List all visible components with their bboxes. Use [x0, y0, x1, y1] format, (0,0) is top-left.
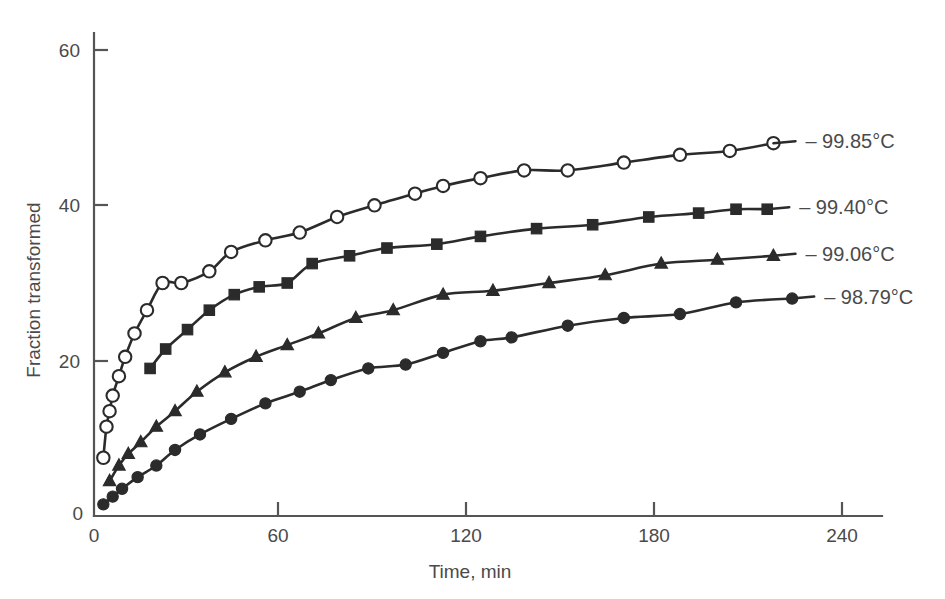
data-point-0-16	[409, 187, 421, 199]
data-point-1-12	[531, 223, 541, 233]
data-point-3-7	[226, 413, 237, 424]
data-point-3-12	[400, 359, 411, 370]
data-point-0-20	[562, 164, 574, 176]
y-tick-label-40: 40	[59, 195, 80, 216]
data-point-1-4	[229, 289, 239, 299]
data-point-3-1	[107, 491, 118, 502]
data-point-3-13	[437, 347, 448, 358]
data-point-3-14	[475, 336, 486, 347]
data-point-3-15	[506, 332, 517, 343]
data-point-1-10	[432, 239, 442, 249]
data-point-0-22	[674, 149, 686, 161]
data-point-0-7	[141, 304, 153, 316]
data-point-0-18	[474, 172, 486, 184]
data-point-0-1	[100, 420, 112, 432]
data-point-0-13	[294, 226, 306, 238]
data-point-0-8	[156, 277, 168, 289]
data-point-0-9	[175, 277, 187, 289]
series-99.85°C	[97, 137, 779, 464]
series-label-layer: – 99.85°C– 99.40°C– 99.06°C– 98.79°C	[799, 130, 913, 307]
data-point-1-16	[731, 204, 741, 214]
y-tick-label-60: 60	[59, 40, 80, 61]
data-point-3-4	[151, 460, 162, 471]
series-98.79°C	[98, 293, 798, 510]
x-tick-label-0: 0	[89, 525, 100, 546]
data-point-1-1	[160, 344, 170, 354]
data-point-3-11	[363, 363, 374, 374]
x-tick-label-240: 240	[826, 525, 858, 546]
y-tick-marks	[94, 50, 108, 361]
x-tick-label-60: 60	[267, 525, 288, 546]
data-point-3-6	[194, 429, 205, 440]
x-tick-marks	[278, 502, 842, 516]
data-point-0-10	[203, 265, 215, 277]
data-point-3-2	[116, 483, 127, 494]
data-point-1-0	[145, 363, 155, 373]
x-tick-labels: 0 60 120 180 240	[89, 525, 858, 546]
data-point-0-4	[113, 370, 125, 382]
data-point-0-6	[128, 327, 140, 339]
series-curve-3	[103, 299, 792, 505]
data-point-0-11	[225, 246, 237, 258]
y-axis-title: Fraction transformed	[23, 202, 44, 377]
data-point-0-19	[518, 164, 530, 176]
data-point-2-6	[191, 385, 203, 396]
series-layer	[97, 137, 814, 510]
series-99.06°C	[103, 249, 779, 485]
data-point-1-8	[344, 251, 354, 261]
y-tick-label-20: 20	[59, 351, 80, 372]
data-point-3-19	[730, 297, 741, 308]
series-label-99.06°C: – 99.06°C	[805, 243, 894, 265]
x-tick-label-120: 120	[450, 525, 482, 546]
series-label-99.85°C: – 99.85°C	[805, 130, 894, 152]
data-point-1-6	[282, 278, 292, 288]
data-point-0-0	[97, 452, 109, 464]
data-point-1-3	[204, 305, 214, 315]
data-point-0-3	[107, 389, 119, 401]
data-point-1-15	[693, 208, 703, 218]
data-point-0-21	[618, 156, 630, 168]
data-point-3-17	[618, 312, 629, 323]
data-point-0-12	[259, 234, 271, 246]
data-point-1-13	[587, 220, 597, 230]
data-point-3-18	[674, 308, 685, 319]
data-point-1-5	[254, 282, 264, 292]
data-point-3-16	[562, 320, 573, 331]
data-point-3-8	[260, 398, 271, 409]
y-tick-label-0: 0	[72, 503, 83, 524]
data-point-3-10	[325, 374, 336, 385]
data-point-1-11	[475, 231, 485, 241]
data-point-0-15	[368, 199, 380, 211]
data-point-1-7	[307, 258, 317, 268]
series-label-99.40°C: – 99.40°C	[799, 196, 888, 218]
data-point-3-5	[169, 444, 180, 455]
data-point-1-14	[644, 212, 654, 222]
data-point-0-17	[437, 180, 449, 192]
data-point-0-23	[724, 145, 736, 157]
x-tick-label-180: 180	[638, 525, 670, 546]
chart-figure: 60 40 20 0 0 60 120 180 240 Time, min Fr…	[0, 0, 945, 599]
y-tick-labels: 60 40 20 0	[59, 40, 83, 524]
data-point-1-2	[182, 324, 192, 334]
data-point-0-2	[103, 405, 115, 417]
data-point-0-14	[331, 211, 343, 223]
series-label-98.79°C: – 98.79°C	[824, 286, 913, 308]
x-axis-title: Time, min	[429, 561, 512, 582]
series-curve-1	[150, 209, 767, 368]
chart-canvas: 60 40 20 0 0 60 120 180 240 Time, min Fr…	[0, 0, 945, 599]
data-point-3-9	[294, 386, 305, 397]
data-point-1-9	[382, 243, 392, 253]
data-point-3-0	[98, 499, 109, 510]
data-point-3-3	[132, 472, 143, 483]
data-point-0-5	[119, 351, 131, 363]
